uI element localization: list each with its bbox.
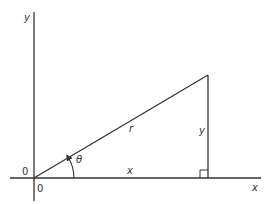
x-axis-label: x — [251, 182, 258, 193]
right-angle-marker — [200, 170, 208, 178]
origin-label-below: 0 — [37, 183, 43, 194]
hypotenuse-label: r — [129, 123, 134, 134]
base-label: x — [126, 165, 133, 176]
angle-label-theta: θ — [76, 154, 82, 165]
origin-label-left: 0 — [22, 166, 28, 177]
angle-arc-icon — [68, 157, 74, 178]
y-axis-label: y — [23, 12, 31, 23]
hypotenuse-r — [34, 75, 208, 178]
height-label: y — [198, 125, 206, 136]
diagram-canvas: y 0 0 x θ r x y — [0, 0, 271, 204]
